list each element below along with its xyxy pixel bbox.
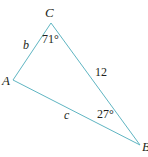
triangle-diagram: C A B b 12 c 71° 27° <box>0 0 148 157</box>
vertex-label-a: A <box>2 74 10 87</box>
angle-label-c: 71° <box>42 33 59 45</box>
side-label-b: b <box>23 39 29 51</box>
vertex-label-c: C <box>45 6 54 19</box>
vertex-label-b: B <box>142 140 148 153</box>
side-label-c: c <box>64 109 69 121</box>
triangle-shape <box>0 0 148 157</box>
angle-label-b: 27° <box>97 108 114 120</box>
side-label-a: 12 <box>95 66 107 78</box>
triangle-outline <box>13 23 140 145</box>
